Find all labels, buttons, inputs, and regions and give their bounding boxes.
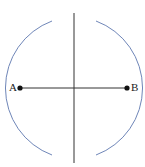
bisector-diagram bbox=[0, 0, 145, 167]
label-a: A bbox=[9, 82, 17, 93]
point-b bbox=[124, 85, 129, 90]
label-b: B bbox=[131, 82, 138, 93]
point-a bbox=[17, 85, 22, 90]
